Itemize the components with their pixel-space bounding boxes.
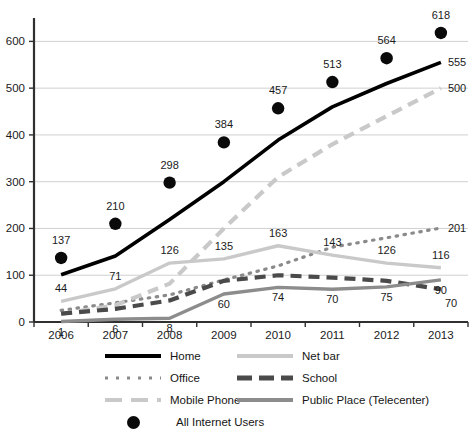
data-point-marker <box>326 76 338 88</box>
legend-label-public-place: Public Place (Telecenter) <box>302 394 429 406</box>
value-label: 135 <box>215 240 233 252</box>
value-label: 116 <box>432 249 450 261</box>
data-point-marker <box>163 176 175 188</box>
y-tick-label: 400 <box>6 129 25 141</box>
value-label: 457 <box>269 84 287 96</box>
value-label: 618 <box>432 9 450 21</box>
data-point-marker <box>109 218 121 230</box>
value-label: 555 <box>448 56 466 68</box>
x-tick-label: 2009 <box>211 329 237 340</box>
black-circle-marker-icon <box>105 416 161 428</box>
chart-legend: Home Net bar Office School Mobile Phone … <box>0 342 475 434</box>
value-label: 71 <box>109 270 121 282</box>
chart-root: 0100200300400500600 55520150044711261351… <box>0 0 475 434</box>
y-tick-label: 500 <box>6 82 25 94</box>
y-tick-label: 0 <box>19 316 25 328</box>
legend-label-mobile-phone: Mobile Phone <box>170 394 240 406</box>
line-chart-plot: 0100200300400500600 55520150044711261351… <box>0 0 475 340</box>
value-label: 137 <box>52 234 70 246</box>
x-tick-label: 2007 <box>103 329 129 340</box>
solid-black-line-icon <box>105 350 161 362</box>
legend-item-public-place[interactable]: Public Place (Telecenter) <box>237 394 429 406</box>
legend-label-school: School <box>302 372 337 384</box>
data-point-marker <box>272 102 284 114</box>
y-axis-ticks-group: 0100200300400500600 <box>6 35 34 328</box>
value-label: 210 <box>106 200 124 212</box>
data-point-marker <box>380 52 392 64</box>
x-tick-label: 2006 <box>48 329 74 340</box>
value-label: 44 <box>55 282 67 294</box>
value-label: 513 <box>323 58 341 70</box>
x-tick-label: 2013 <box>428 329 454 340</box>
value-label: 384 <box>215 118 233 130</box>
series-line-home <box>61 62 441 274</box>
x-tick-label: 2008 <box>157 329 183 340</box>
y-tick-label: 600 <box>6 35 25 47</box>
y-tick-label: 200 <box>6 222 25 234</box>
legend-label-home: Home <box>170 350 201 362</box>
legend-item-home[interactable]: Home <box>105 350 201 362</box>
x-axis-labels-group: 20062007200820092010201120122013 <box>48 329 453 340</box>
legend-item-mobile-phone[interactable]: Mobile Phone <box>105 394 240 406</box>
value-label: 298 <box>160 159 178 171</box>
dashed-lightgray-line-icon <box>105 394 161 406</box>
x-tick-label: 2012 <box>374 329 400 340</box>
value-label: 201 <box>448 222 466 234</box>
value-label: 564 <box>377 34 395 46</box>
value-label: 75 <box>381 291 393 303</box>
legend-item-school[interactable]: School <box>237 372 337 384</box>
data-point-marker <box>55 252 67 264</box>
legend-label-net-bar: Net bar <box>302 350 340 362</box>
solid-gray-line-icon <box>237 394 293 406</box>
data-point-marker <box>435 27 447 39</box>
value-label: 60 <box>218 298 230 310</box>
legend-item-all-internet-users[interactable]: All Internet Users <box>105 416 264 428</box>
data-point-marker <box>218 136 230 148</box>
value-label: 70 <box>326 293 338 305</box>
dotted-gray-line-icon <box>105 372 161 384</box>
value-label: 126 <box>377 244 395 256</box>
solid-lightgray-line-icon <box>237 350 293 362</box>
legend-label-office: Office <box>170 372 200 384</box>
value-label: 163 <box>269 227 287 239</box>
legend-item-office[interactable]: Office <box>105 372 200 384</box>
value-label: 90 <box>435 284 447 296</box>
y-tick-label: 100 <box>6 269 25 281</box>
legend-item-net-bar[interactable]: Net bar <box>237 350 340 362</box>
x-tick-label: 2010 <box>265 329 291 340</box>
value-label: 143 <box>323 236 341 248</box>
value-label: 500 <box>448 82 466 94</box>
dashed-darkgray-line-icon <box>237 372 293 384</box>
series-lines-group <box>61 62 441 321</box>
value-label: 74 <box>272 291 284 303</box>
x-tick-label: 2011 <box>320 329 345 340</box>
legend-label-all-internet-users: All Internet Users <box>176 416 264 428</box>
value-label: 126 <box>160 244 178 256</box>
y-tick-label: 300 <box>6 176 25 188</box>
value-label: 70 <box>445 297 457 309</box>
